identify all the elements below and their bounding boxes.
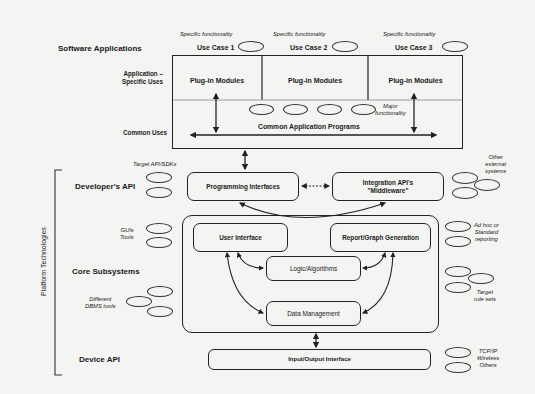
oval-device-2: [445, 362, 471, 373]
label-device-api: Device API: [79, 355, 120, 364]
report-graph-generation-box: Report/Graph Generation: [330, 223, 431, 252]
user-interface-box: User Interface: [193, 223, 288, 252]
annotation-specific-functionality-1: Specific functionality: [180, 31, 233, 38]
annotation-target-api-sdks: Target API/SDKs: [133, 161, 176, 168]
annotation-other-external-systems: Other external systems: [485, 154, 506, 176]
oval-rules-3: [445, 282, 471, 293]
oval-api-1: [146, 172, 172, 183]
oval-device-1: [445, 347, 471, 358]
oval-gui-2: [146, 237, 172, 248]
oval-common-3: [317, 104, 342, 115]
label-software-applications: Software Applications: [58, 44, 142, 53]
oval-gui-1: [146, 223, 172, 234]
oval-use-case-1: [238, 41, 264, 52]
oval-common-1: [249, 104, 274, 115]
oval-rules-2: [468, 273, 494, 284]
label-application-specific-uses: Application – Specific Uses: [122, 70, 163, 85]
plugin-modules-3: Plug-in Modules: [368, 77, 463, 84]
oval-external-2: [474, 179, 500, 191]
annotation-specific-functionality-2: Specific functionality: [273, 31, 326, 38]
label-developers-api: Developer's API: [75, 182, 135, 191]
oval-dbms-2: [126, 296, 152, 307]
programming-interfaces-box: Programming Interfaces: [187, 172, 299, 201]
input-output-interface-box: Input/Output Interface: [208, 349, 431, 370]
user-interface-label: User Interface: [219, 234, 262, 242]
oval-use-case-2: [332, 41, 358, 52]
oval-common-2: [283, 104, 308, 115]
oval-dbms-3: [147, 306, 173, 317]
oval-report-2: [445, 236, 471, 247]
oval-use-case-3: [442, 41, 468, 52]
software-applications-box: [172, 55, 463, 149]
oval-api-2: [146, 187, 172, 198]
oval-external-3: [452, 187, 478, 199]
integration-apis-box: Integration API's "Middleware": [332, 172, 444, 201]
oval-common-4: [351, 104, 376, 115]
label-common-application-programs: Common Application Programs: [258, 123, 360, 130]
plugin-modules-2: Plug-in Modules: [262, 77, 368, 84]
label-use-case-3: Use Case 3: [395, 44, 432, 51]
report-graph-generation-label: Report/Graph Generation: [342, 234, 419, 242]
annotation-guis-tools: GUIs Tools: [120, 227, 134, 241]
oval-report-1: [445, 221, 471, 232]
label-use-case-1: Use Case 1: [197, 44, 234, 51]
annotation-target-rule-sets: Target rule sets: [474, 289, 496, 303]
annotation-reporting: Ad hoc or Standard reporting: [474, 222, 499, 244]
logic-algorithms-box: Logic/Algorithms: [266, 256, 361, 281]
data-management-label: Data Management: [287, 310, 340, 318]
programming-interfaces-label: Programming Interfaces: [206, 183, 280, 191]
annotation-specific-functionality-3: Specific functionality: [383, 31, 436, 38]
label-common-uses: Common Uses: [123, 129, 167, 136]
platform-bracket: [55, 170, 62, 375]
label-use-case-2: Use Case 2: [290, 44, 327, 51]
logic-algorithms-label: Logic/Algorithms: [290, 265, 337, 273]
label-core-subsystems: Core Subsystems: [72, 267, 140, 276]
annotation-major-functionality: Major functionality: [375, 103, 406, 117]
input-output-interface-label: Input/Output Interface: [288, 356, 351, 364]
annotation-tcpip-wireless-others: TCP/IP Wireless Others: [477, 348, 499, 370]
annotation-different-dbms-tools: Different DBMS tools: [85, 296, 116, 310]
data-management-box: Data Management: [266, 301, 361, 326]
oval-dbms-1: [147, 286, 173, 297]
integration-apis-label: Integration API's "Middleware": [363, 179, 413, 195]
label-platform-technologies: Platform Technologies: [40, 217, 47, 307]
plugin-modules-1: Plug-in Modules: [172, 77, 262, 84]
oval-rules-1: [445, 266, 471, 277]
